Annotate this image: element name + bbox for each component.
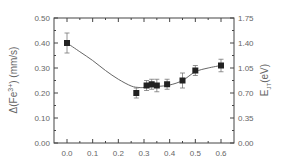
chart: 0.00.10.20.30.40.50.6 0.000.100.200.300.… — [0, 0, 284, 164]
y-tick-label: 0.30 — [34, 64, 50, 73]
y2-axis-label: EJT(eV) — [259, 64, 272, 96]
y-axis-label: Δ(Fe3+) (mm/s) — [7, 47, 19, 114]
data-point — [180, 73, 186, 88]
y2-tick-label: 0.35 — [238, 114, 254, 123]
y2-tick-label: 0.70 — [238, 89, 254, 98]
y-tick-label: 0.50 — [34, 14, 50, 23]
data-point — [218, 59, 224, 72]
x-tick-label: 0.4 — [164, 149, 176, 158]
y-tick-label: 0.20 — [34, 89, 50, 98]
y2-tick-label: 1.05 — [238, 64, 254, 73]
y2-tick-label: 1.75 — [238, 14, 254, 23]
y2-tick-label: 0.00 — [238, 139, 254, 148]
x-tick-label: 0.0 — [61, 149, 73, 158]
plot-frame — [54, 18, 234, 143]
y-tick-label: 0.10 — [34, 114, 50, 123]
fit-curve — [67, 43, 221, 88]
data-point — [192, 66, 198, 76]
y-tick-label: 0.40 — [34, 39, 50, 48]
y2-tick-label: 1.40 — [238, 39, 254, 48]
data-point — [133, 88, 139, 98]
data-point — [144, 81, 150, 91]
x-tick-label: 0.1 — [87, 149, 99, 158]
x-tick-label: 0.6 — [215, 149, 227, 158]
data-points — [64, 33, 224, 98]
y-tick-label: 0.00 — [34, 139, 50, 148]
data-point — [164, 79, 170, 89]
data-point — [64, 33, 70, 53]
x-tick-label: 0.3 — [138, 149, 150, 158]
data-point — [149, 79, 155, 89]
x-tick-label: 0.5 — [190, 149, 202, 158]
x-tick-label: 0.2 — [113, 149, 125, 158]
data-point — [154, 79, 160, 92]
